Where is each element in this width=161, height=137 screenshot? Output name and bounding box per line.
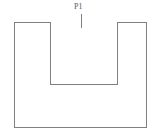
figure-background	[0, 0, 161, 137]
notched-rectangle-drawing	[0, 0, 161, 137]
label-p1: P1	[74, 2, 82, 11]
figure-container: P1	[0, 0, 161, 137]
